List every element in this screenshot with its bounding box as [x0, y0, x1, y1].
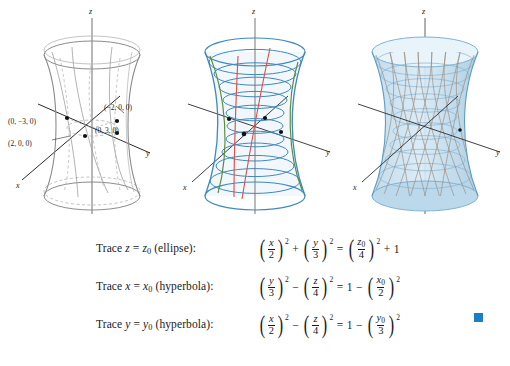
math-operator: −: [352, 281, 366, 293]
math-fraction-power: (z4)2: [302, 276, 333, 299]
fraction-denominator: 3: [268, 287, 275, 299]
math-exponent: 2: [285, 275, 289, 284]
trace-var-2: y: [125, 318, 130, 330]
figure2-axis-label-y: y: [325, 148, 330, 157]
trace-row: Trace x = x0 (hyperbola): (y3)2−(z4)2=1−…: [0, 268, 510, 306]
fraction-denominator: 2: [268, 325, 275, 337]
math-fraction-power: (x02)2: [366, 275, 400, 298]
math-exponent: 2: [329, 237, 333, 246]
point-marker: [279, 130, 283, 134]
figure3-axis-label-y: y: [495, 148, 500, 157]
ruling-back-2: [89, 60, 104, 188]
trace-eq-0: =: [133, 242, 140, 254]
trace-prefix-1: Trace: [96, 280, 122, 292]
math-fraction: z04: [355, 237, 367, 260]
math-operator: +: [380, 243, 394, 255]
math-fraction-power: (y3)2: [302, 238, 333, 261]
figures-row: z y x (0, −3, 0) (2, 0, 0) (−2, 0, 0) (0…: [0, 0, 510, 218]
math-fraction-power: (z04)2: [347, 237, 380, 260]
fraction-denominator: 4: [358, 249, 365, 261]
math-fraction-power: (x2)2: [258, 314, 289, 337]
fraction-numerator: y0: [376, 313, 386, 324]
math-fraction: y3: [267, 276, 276, 299]
fraction-numerator: x: [268, 238, 275, 249]
math-fraction: z4: [311, 276, 320, 299]
ruling-3: [109, 47, 128, 190]
figure1-point-label-2: (−2, 0, 0): [104, 103, 132, 112]
figure2-axis-label-x: x: [182, 183, 187, 192]
math-operator: =: [333, 243, 347, 255]
math-fraction: x02: [375, 275, 387, 298]
math-exponent: 2: [329, 275, 333, 284]
trace-row: Trace z = z0 (ellipse): (x2)2+(y3)2=(z04…: [0, 230, 510, 268]
surface-fill: [372, 52, 478, 196]
trace-eq-1: =: [133, 280, 140, 292]
top-cap: [372, 37, 478, 67]
fraction-numerator: z: [313, 314, 319, 325]
point-marker: [65, 116, 69, 120]
math-operator: =: [333, 281, 347, 293]
trace-prefix-2: Trace: [96, 318, 122, 330]
trace-row: Trace y = y0 (hyperbola): (x2)2−(z4)2=1−…: [0, 306, 510, 344]
fraction-numerator-subscript: 0: [381, 278, 385, 287]
figure2-axis-label-z: z: [251, 7, 256, 16]
math-exponent: 2: [329, 313, 333, 322]
math-fraction: x2: [267, 314, 276, 337]
math-operator: +: [289, 243, 303, 255]
figure1-axis-label-z: z: [88, 7, 93, 16]
trace-value-sub-1: 0: [148, 285, 152, 294]
trace-value-sub-0: 0: [147, 247, 151, 256]
math-constant: 1: [394, 243, 400, 255]
trace-prefix-0: Trace: [96, 242, 122, 254]
ruling-4: [126, 52, 134, 192]
figure1-axis-label-x: x: [15, 181, 20, 190]
math-operator: −: [289, 319, 303, 331]
figure-trace-curves-hyperboloid: z y x: [170, 0, 340, 218]
trace-kind-1: (hyperbola):: [155, 280, 213, 292]
fraction-numerator: x: [268, 314, 275, 325]
shaded-mesh-group: z y x: [352, 7, 500, 214]
fraction-numerator-subscript: 0: [381, 316, 385, 325]
math-fraction: y03: [375, 313, 387, 336]
fraction-numerator: z0: [356, 237, 366, 248]
fraction-numerator: x0: [376, 275, 386, 286]
trace-equation-0: (x2)2+(y3)2=(z04)2+1: [258, 237, 399, 260]
math-exponent: 2: [285, 237, 289, 246]
wireframe-group: z y x (0, −3, 0) (2, 0, 0) (−2, 0, 0) (0…: [8, 7, 150, 214]
leader-line: [52, 136, 70, 140]
math-operator: −: [352, 319, 366, 331]
math-fraction-power: (z4)2: [302, 314, 333, 337]
fraction-numerator-subscript: 0: [361, 240, 365, 249]
fraction-denominator: 4: [312, 287, 319, 299]
figure3-axis-label-z: z: [421, 7, 426, 16]
fraction-numerator: y: [268, 276, 275, 287]
fraction-numerator: z: [313, 276, 319, 287]
figure3-axis-label-x: x: [352, 183, 357, 192]
math-fraction-power: (y03)2: [366, 313, 400, 336]
point-marker: [242, 132, 247, 137]
point-marker: [263, 116, 267, 120]
point-marker: [115, 119, 119, 123]
math-fraction: x2: [267, 238, 276, 261]
math-fraction-power: (y3)2: [258, 276, 289, 299]
point-marker: [83, 134, 87, 138]
trace-var-1: x: [125, 280, 130, 292]
math-exponent: 2: [376, 237, 380, 246]
fraction-numerator: y: [312, 238, 319, 249]
trace-var-0: z: [125, 242, 130, 254]
math-fraction: z4: [311, 314, 320, 337]
fraction-denominator: 4: [312, 325, 319, 337]
point-marker: [458, 128, 462, 132]
trace-equation-2: (x2)2−(z4)2=1−(y03)2: [258, 313, 400, 336]
trace-value-sub-2: 0: [148, 323, 152, 332]
math-operator: −: [289, 281, 303, 293]
math-fraction: y3: [311, 238, 320, 261]
math-exponent: 2: [285, 313, 289, 322]
math-exponent: 2: [396, 275, 400, 284]
section-end-square: [474, 313, 483, 322]
figure1-axis-label-y: y: [145, 149, 150, 158]
trace-kind-2: (hyperbola):: [155, 318, 213, 330]
fraction-denominator: 2: [268, 249, 275, 261]
fraction-denominator: 3: [377, 325, 384, 337]
silhouette-left: [44, 55, 56, 196]
